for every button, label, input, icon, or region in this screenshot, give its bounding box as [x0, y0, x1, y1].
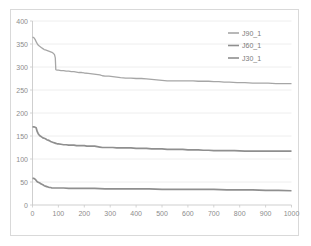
x-axis-tick-label: 700 [208, 210, 220, 217]
y-axis-tick-label: 100 [16, 156, 28, 163]
y-axis-tick-label: 350 [16, 41, 28, 48]
x-axis-tick-label: 800 [234, 210, 246, 217]
x-axis-tick-label: 300 [104, 210, 116, 217]
line-chart: 0501001502002503003504000100200300400500… [0, 0, 311, 246]
x-axis-tick-label: 0 [31, 210, 35, 217]
y-axis-tick-label: 400 [16, 18, 28, 25]
y-axis-tick-label: 300 [16, 64, 28, 71]
x-axis-tick-label: 400 [130, 210, 142, 217]
x-axis-tick-label: 100 [53, 210, 65, 217]
y-axis-tick-label: 0 [24, 202, 28, 209]
y-axis-tick-label: 200 [16, 110, 28, 117]
y-axis-tick-label: 250 [16, 87, 28, 94]
x-axis-tick-label: 200 [78, 210, 90, 217]
x-axis-tick-label: 600 [182, 210, 194, 217]
y-axis-tick-label: 50 [20, 179, 28, 186]
legend-label-j30_1: J30_1 [242, 55, 261, 63]
x-axis-tick-label: 900 [260, 210, 272, 217]
y-axis-tick-label: 150 [16, 133, 28, 140]
chart-container: 0501001502002503003504000100200300400500… [0, 0, 311, 246]
x-axis-tick-label: 1000 [284, 210, 300, 217]
x-axis-tick-label: 500 [156, 210, 168, 217]
legend-label-j60_1: J60_1 [242, 42, 261, 50]
legend-label-j90_1: J90_1 [242, 30, 261, 38]
